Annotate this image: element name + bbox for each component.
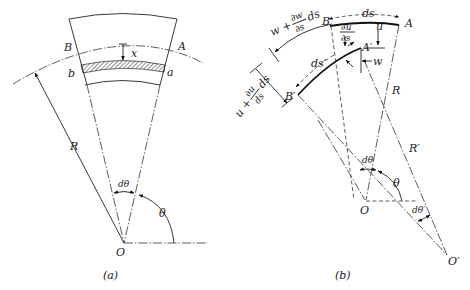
label-u: u <box>376 20 383 33</box>
dtheta-prime-arc <box>418 215 430 221</box>
radial-Bprime-to-Oprime <box>298 95 447 255</box>
label-O: O <box>360 204 369 217</box>
label-x: x <box>131 47 138 60</box>
label-ds-prime: ds′ <box>311 57 327 70</box>
rotation-arrow <box>346 60 353 67</box>
u-plus-top-tick <box>250 63 262 73</box>
deformed-arc-BprimeAprime <box>298 48 361 95</box>
label-w-plus-dw-ds: w + ∂w ∂s ds <box>267 3 324 43</box>
svg-text:∂w: ∂w <box>289 9 304 23</box>
svg-text:w +: w + <box>268 18 293 38</box>
theta-arc <box>139 195 174 243</box>
radial-Aprime-to-Oprime <box>364 60 447 255</box>
label-dtheta: dθ <box>118 179 130 189</box>
label-B-prime: B′ <box>284 90 296 103</box>
label-dtheta-prime: dθ′ <box>412 205 425 215</box>
label-A: A <box>177 40 186 53</box>
curved-beam-diagram: A B a b x R O dθ θ (a) <box>0 0 470 290</box>
label-O-prime: O′ <box>448 255 460 268</box>
label-a: a <box>167 66 174 79</box>
caption-b: (b) <box>335 269 351 282</box>
R-radius-arrow <box>35 73 124 243</box>
label-dtheta: dθ <box>362 155 374 165</box>
label-u-plus-du-ds: u + ∂u ds ds <box>229 70 277 123</box>
left-radial-line <box>87 85 124 243</box>
caption-a: (a) <box>103 269 118 282</box>
label-B: B <box>63 41 72 54</box>
svg-text:ds: ds <box>305 7 322 24</box>
inner-arc <box>85 81 160 86</box>
svg-text:ds: ds <box>255 72 273 90</box>
label-ds: ds <box>362 7 375 20</box>
label-B: B <box>321 15 330 28</box>
label-R-prime: R′ <box>408 142 420 155</box>
figure-a: A B a b x R O dθ θ (a) <box>13 14 208 283</box>
label-theta: θ <box>159 207 166 220</box>
label-A-prime: A′ <box>361 41 373 54</box>
label-w: w <box>373 55 383 68</box>
label-theta: θ <box>393 177 400 190</box>
dtheta-line-left <box>318 120 365 200</box>
right-radial-line <box>124 85 160 243</box>
figure-b: B A ds ∂u ∂s u A′ w ds′ B′ R R′ O O′ dθ … <box>229 3 460 282</box>
label-b: b <box>68 67 75 80</box>
label-O: O <box>116 246 125 259</box>
label-R: R <box>69 140 78 153</box>
label-du-ds-den: ∂s <box>341 33 351 43</box>
hatched-fiber <box>81 61 165 74</box>
label-du-ds-num: ∂u <box>341 22 352 32</box>
dtheta-arc <box>114 192 134 194</box>
label-A: A <box>404 17 413 30</box>
outer-arc <box>69 14 177 20</box>
label-R: R <box>391 84 400 97</box>
